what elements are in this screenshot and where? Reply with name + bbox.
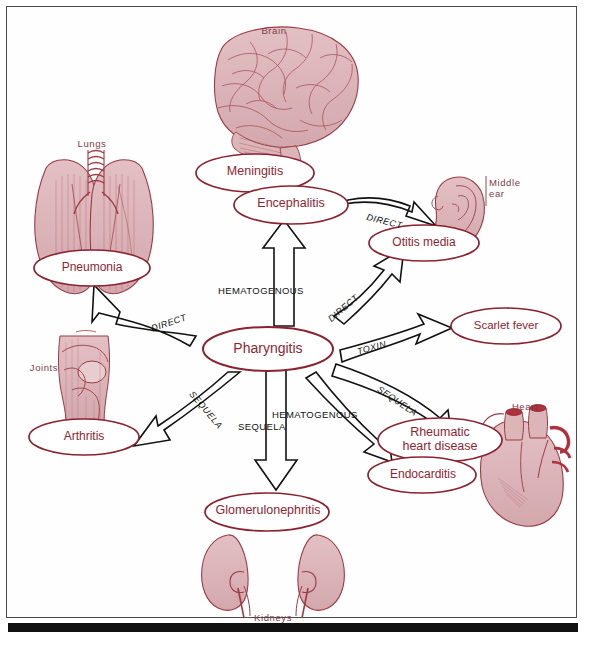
node-ellipse-encephalitis <box>234 186 348 224</box>
node-ellipse-pneumonia <box>34 250 150 286</box>
node-ellipse-otitis-media <box>369 225 479 261</box>
brain-illustration <box>215 27 359 176</box>
node-ellipse-glomerulonephritis <box>205 493 329 531</box>
arrow-sequela-kidneys <box>255 370 297 490</box>
node-ellipse-scarlet-fever <box>451 308 561 344</box>
arrow-direct-ear-lower <box>334 248 404 324</box>
diagram-graphics <box>0 0 589 649</box>
node-ellipse-arthritis <box>29 419 139 455</box>
arrow-toxin-scarlet <box>340 314 452 362</box>
arrow-hematogenous-brain <box>263 220 305 326</box>
node-ellipse-pharyngitis <box>203 327 333 371</box>
node-ellipse-rheumatic-hd <box>378 418 502 462</box>
joint-illustration <box>59 331 110 425</box>
arrow-direct-ear-upper <box>344 198 436 226</box>
diagram-canvas: Brain Lungs Middle ear Joints Heart Kidn… <box>0 0 589 649</box>
kidneys-illustration <box>202 535 345 618</box>
arrow-sequela-joints <box>134 372 240 446</box>
node-ellipse-endocarditis <box>368 457 476 493</box>
heart-illustration <box>481 405 571 527</box>
